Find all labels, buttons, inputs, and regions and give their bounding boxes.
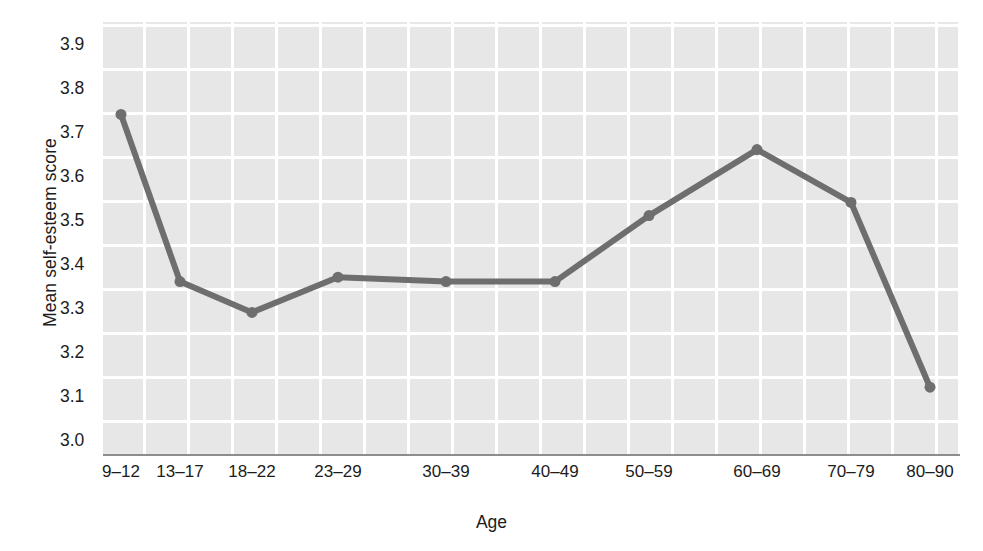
x-tick-label-6: 50–59 <box>625 463 672 480</box>
x-tick-label-9: 80–90 <box>906 463 953 480</box>
vertical-gridline-0 <box>143 22 146 454</box>
y-tick-label-5: 3.5 <box>60 212 106 230</box>
y-tick-label-9: 3.9 <box>60 36 106 54</box>
x-tick-label-0: 9–12 <box>102 463 140 480</box>
vertical-gridline-18 <box>935 22 938 454</box>
x-tick-label-7: 60–69 <box>733 463 780 480</box>
x-axis-line <box>103 454 960 456</box>
vertical-gridline-6 <box>407 22 410 454</box>
y-tick-label-1: 3.1 <box>60 388 106 406</box>
y-axis-label: Mean self-esteem score <box>40 53 61 413</box>
chart-figure: Mean self-esteem score 3.9 3.8 3.7 3.6 3… <box>0 0 983 551</box>
vertical-gridline-13 <box>715 22 718 454</box>
y-tick-label-6: 3.6 <box>60 168 106 186</box>
vertical-gridline-14 <box>759 22 762 454</box>
vertical-gridline-8 <box>495 22 498 454</box>
x-tick-label-8: 70–79 <box>827 463 874 480</box>
vertical-gridline-17 <box>891 22 894 454</box>
vertical-gridline-5 <box>363 22 366 454</box>
vertical-gridline-16 <box>847 22 850 454</box>
y-tick-label-8: 3.8 <box>60 80 106 98</box>
y-tick-label-2: 3.2 <box>60 344 106 362</box>
vertical-gridline-7 <box>451 22 454 454</box>
y-tick-label-3: 3.3 <box>60 300 106 318</box>
x-tick-label-1: 13–17 <box>156 463 203 480</box>
x-tick-label-3: 23–29 <box>314 463 361 480</box>
vertical-gridline-12 <box>671 22 674 454</box>
x-tick-label-5: 40–49 <box>531 463 578 480</box>
y-tick-label-7: 3.7 <box>60 124 106 142</box>
x-tick-label-4: 30–39 <box>422 463 469 480</box>
vertical-gridline-4 <box>319 22 322 454</box>
x-axis-label: Age <box>0 512 983 533</box>
vertical-gridline-15 <box>803 22 806 454</box>
vertical-gridline-2 <box>231 22 234 454</box>
vertical-gridline-9 <box>539 22 542 454</box>
vertical-gridline-11 <box>627 22 630 454</box>
y-tick-label-4: 3.4 <box>60 256 106 274</box>
vertical-gridline-3 <box>275 22 278 454</box>
vertical-gridline-1 <box>187 22 190 454</box>
y-tick-label-0: 3.0 <box>60 432 106 450</box>
plot-area <box>103 22 958 454</box>
vertical-gridline-10 <box>583 22 586 454</box>
x-tick-label-2: 18–22 <box>228 463 275 480</box>
